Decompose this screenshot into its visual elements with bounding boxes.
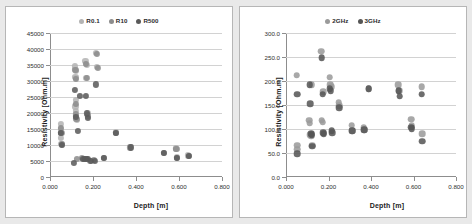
x-axis-tick-label: 0.400 [128, 183, 143, 190]
legend-marker-icon [136, 19, 141, 24]
x-axis-title-left: Depth [m] [6, 202, 233, 209]
y-axis-tick [46, 33, 50, 34]
x-axis-tick [456, 177, 457, 181]
data-point [94, 51, 100, 57]
data-point [418, 91, 425, 98]
y-axis-tick-label: 40000 [27, 46, 44, 53]
legend-label: R0.1 [86, 18, 99, 24]
y-axis-tick [46, 161, 50, 162]
data-point [307, 101, 314, 108]
legend-entry-3ghz[interactable]: 3GHz [358, 18, 381, 24]
y-axis-tick-label: 50.0 [268, 150, 280, 157]
legend-label: R10 [116, 18, 128, 24]
x-axis-tick-label: 0.800 [214, 183, 229, 190]
grid-line [286, 33, 456, 34]
data-point [293, 72, 300, 79]
figure-container: R0.1R10R500 Resistivity [Ohm.m] Depth [m… [0, 0, 472, 224]
y-axis-tick-label: 0.0 [271, 174, 280, 181]
data-point [308, 131, 315, 138]
plot-area-right: 0.050.0100.0150.0200.0250.0300.00.0000.2… [286, 33, 456, 177]
data-point [418, 83, 425, 90]
chart-legend-left: R0.1R10R500 [6, 18, 232, 24]
data-point [329, 130, 336, 137]
x-axis-tick-label: 0.000 [278, 183, 293, 190]
data-point [294, 91, 301, 98]
y-axis-tick [46, 49, 50, 50]
data-point [396, 93, 403, 100]
legend-label: 2GHz [332, 18, 348, 24]
data-point [309, 143, 316, 150]
data-point [361, 127, 368, 134]
y-axis-tick-label: 300.0 [265, 30, 280, 37]
data-point [318, 55, 325, 62]
x-axis-tick-label: 0.200 [85, 183, 100, 190]
grid-line [50, 145, 222, 146]
y-axis-tick [282, 57, 286, 58]
chart-legend-right: 2GHz3GHz [240, 18, 466, 24]
data-point [319, 119, 326, 126]
data-point [128, 144, 134, 150]
data-point [95, 65, 101, 71]
data-point [319, 91, 326, 98]
chart-panel-left: R0.1R10R500 Resistivity [Ohm.m] Depth [m… [5, 6, 233, 218]
y-axis-tick-label: 10000 [27, 142, 44, 149]
legend-label: 3GHz [365, 18, 381, 24]
x-axis-title-right: Depth [m] [240, 202, 467, 209]
data-point [74, 128, 80, 134]
y-axis-tick [46, 65, 50, 66]
x-axis-tick [222, 177, 223, 181]
data-point [336, 105, 343, 112]
y-axis-title-right: Resistivity [Ohm.m] [275, 77, 282, 147]
legend-marker-icon [358, 19, 363, 24]
y-axis-tick [282, 33, 286, 34]
data-point [92, 158, 98, 164]
y-axis-tick [46, 81, 50, 82]
data-point [85, 115, 91, 121]
data-point [294, 151, 301, 158]
data-point [419, 131, 426, 138]
x-axis-tick-label: 0.600 [406, 183, 421, 190]
legend-entry-2ghz[interactable]: 2GHz [325, 18, 348, 24]
data-point [307, 82, 314, 89]
data-point [366, 85, 373, 92]
y-axis-tick [46, 97, 50, 98]
data-point [112, 130, 118, 136]
y-axis-tick-label: 200.0 [265, 78, 280, 85]
x-axis-tick [179, 177, 180, 181]
legend-entry-r0-1[interactable]: R0.1 [79, 18, 99, 24]
x-axis-tick [286, 177, 287, 181]
grid-line [286, 153, 456, 154]
x-axis-tick [50, 177, 51, 181]
data-point [326, 74, 333, 81]
x-axis-tick [329, 177, 330, 181]
data-point [71, 160, 77, 166]
y-axis-line-left [50, 33, 51, 177]
x-axis-tick-label: 0.800 [448, 183, 463, 190]
legend-entry-r500[interactable]: R500 [136, 18, 158, 24]
data-point [318, 48, 325, 55]
x-axis-tick [371, 177, 372, 181]
data-point [321, 131, 328, 138]
y-axis-tick-label: 25000 [27, 94, 44, 101]
legend-entry-r10[interactable]: R10 [109, 18, 128, 24]
grid-line [286, 57, 456, 58]
data-point [409, 126, 416, 133]
y-axis-tick [282, 81, 286, 82]
y-axis-tick [46, 145, 50, 146]
x-axis-tick-label: 0.200 [321, 183, 336, 190]
y-axis-tick-label: 35000 [27, 62, 44, 69]
y-axis-tick-label: 100.0 [265, 126, 280, 133]
y-axis-tick [282, 129, 286, 130]
y-axis-tick [282, 105, 286, 106]
y-axis-tick [282, 153, 286, 154]
data-point [173, 146, 179, 152]
y-axis-tick [46, 113, 50, 114]
legend-marker-icon [79, 19, 84, 24]
data-point [307, 120, 314, 127]
y-axis-tick-label: 30000 [27, 78, 44, 85]
x-axis-tick [136, 177, 137, 181]
data-point [83, 93, 89, 99]
grid-line [50, 49, 222, 50]
data-point [59, 142, 65, 148]
y-axis-tick-label: 45000 [27, 30, 44, 37]
